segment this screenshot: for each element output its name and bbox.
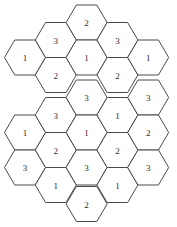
hex-cell-value: 1 — [146, 53, 151, 63]
hex-column-2: 32321 — [35, 23, 76, 203]
hex-cell-value: 3 — [115, 36, 120, 46]
hex-cell-value: 2 — [84, 18, 89, 28]
hex-cell-value: 3 — [146, 93, 151, 103]
hex-cell-value: 3 — [23, 163, 28, 173]
hex-cell-value: 1 — [54, 181, 59, 191]
hex-cell-value: 3 — [84, 93, 89, 103]
hex-cell-value: 1 — [115, 181, 120, 191]
hex-cell-value: 2 — [54, 146, 59, 156]
hex-grid-canvas: 11332321213132321211323 — [0, 0, 177, 227]
hex-cell-value: 3 — [146, 163, 151, 173]
hex-column-4: 32121 — [97, 23, 138, 203]
hex-cell-value: 1 — [84, 53, 89, 63]
hex-cell-value: 3 — [84, 163, 89, 173]
hex-cell-value: 2 — [115, 146, 120, 156]
hex-cell-value: 1 — [23, 53, 28, 63]
hexagonal-grid-figure: 11332321213132321211323 — [0, 0, 177, 227]
hex-cell-value: 3 — [54, 111, 59, 121]
hex-cell-value: 3 — [54, 36, 59, 46]
hex-cell-value: 1 — [23, 128, 28, 138]
hex-cell-value: 2 — [84, 200, 89, 210]
hex-cell-value: 1 — [115, 111, 120, 121]
hex-cell-value: 2 — [54, 71, 59, 81]
hex-cell-value: 2 — [146, 128, 151, 138]
hex-cell-value: 2 — [115, 71, 120, 81]
hex-cell-value: 1 — [84, 128, 89, 138]
